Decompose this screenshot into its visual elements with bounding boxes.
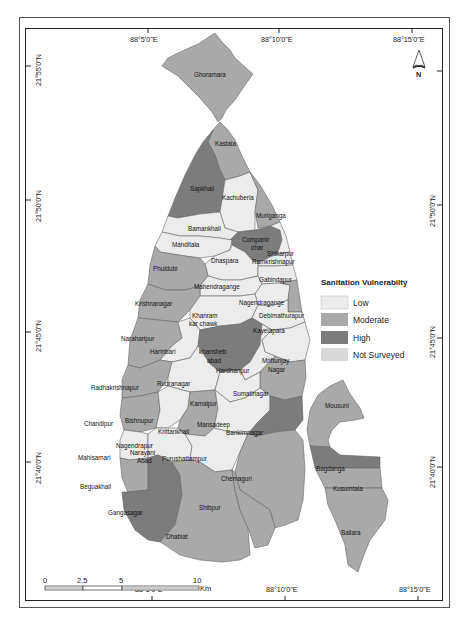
label-chandipur: Chandipur (84, 420, 113, 428)
label-radhakrishnapur: Radhakrishnapur (91, 384, 139, 392)
label-narayani-abad: Abad (137, 457, 152, 464)
label-bishnupur: Bishnupur (125, 417, 153, 425)
legend-swatch-low (321, 296, 348, 309)
label-narayani-abad: Narayani (130, 449, 155, 457)
legend-label-high: High (353, 333, 371, 343)
label-khanram: kar chawk (189, 320, 218, 327)
region-kachuberia[interactable] (220, 172, 258, 232)
region-chandipur[interactable] (120, 392, 160, 432)
label-kachuberia: Kachuberia (222, 194, 254, 201)
legend-label-moderate: Moderate (353, 315, 389, 325)
sagar-island (120, 33, 310, 562)
legend: Sanitation Vulnerabilty Low Moderate Hig… (321, 278, 408, 361)
north-arrow-label: N (416, 70, 421, 79)
legend-label-low: Low (353, 298, 369, 308)
label-dhablat: Dhablat (166, 533, 188, 540)
label-purushattampur: Purushattampur (162, 455, 207, 463)
legend-title: Sanitation Vulnerabilty (321, 278, 408, 287)
label-sumatinagar: Sumatinagar (233, 390, 269, 398)
bottom-longitude-label: 88°10'0"E (266, 585, 298, 594)
north-arrow-icon (413, 50, 425, 68)
label-mrittunjay-nagar: Mrittunjay (262, 357, 290, 365)
label-naraharipur: Naraharipur (121, 335, 154, 343)
label-bankimnagar: Bankimnagar (226, 429, 263, 437)
label-bamankhali: Bamankhali (188, 225, 221, 232)
label-krishnanagar: Krishnanagar (135, 300, 172, 308)
legend-swatch-not-surveyed (321, 348, 348, 361)
label-muriganga: Muriganga (256, 212, 286, 220)
label-harinbari: Harinbari (150, 348, 176, 355)
scale-tick-0: 0 (43, 576, 47, 585)
scale-unit: Km (200, 584, 211, 593)
region-mousuni[interactable] (307, 380, 364, 447)
scale-tick-2-5: 2.5 (77, 576, 87, 585)
left-latitude-label: 21°40'0"N (34, 452, 43, 484)
left-latitude-label: 21°50'0"N (34, 190, 43, 222)
right-latitude-label: 21°40'0"N (428, 456, 437, 488)
label-mansadeep: Mansadeep (197, 421, 230, 429)
label-mrittunjay-nagar: Nagar (268, 366, 285, 374)
map-canvas: 88°5'0"E 88°10'0"E 88°15'0"E 88°5'0"E 88… (0, 0, 465, 635)
label-mahendragange: Mahendragange (194, 283, 240, 291)
right-latitude-label: 21°50'0"N (428, 195, 437, 227)
label-debimathurapur: Debimathurapur (259, 312, 304, 320)
right-latitude-label: 21°45'0"N (428, 326, 437, 358)
label-manditala: Manditala (172, 241, 200, 248)
label-nagendragange: Nagendragange (239, 299, 285, 307)
label-hardhanpur: Hardhanpur (216, 367, 249, 375)
label-kayelapara: Kayelapara (253, 327, 285, 335)
label-companir-char: char (251, 244, 263, 251)
label-gangasagar: Gangasagar (108, 509, 143, 517)
legend-swatch-high (321, 331, 348, 344)
label-khanram: Khanram (192, 312, 218, 319)
label-kastala: Kastala (215, 140, 237, 147)
left-latitude-label: 21°55'0"N (34, 54, 43, 86)
top-longitude-label: 88°5'0"E (130, 35, 158, 44)
label-beguakhali: Beguakhali (80, 483, 111, 491)
label-mahisamari: Mahisamari (78, 454, 111, 461)
scale-tick-5: 5 (119, 576, 123, 585)
label-dhaspara: Dhaspara (211, 257, 239, 265)
label-kusumtala: Kusumtala (333, 485, 363, 492)
label-companir-char: Companir (242, 236, 269, 244)
label-sapkhali: Sapkhali (190, 185, 214, 193)
label-khansheb-abad: abad (207, 357, 222, 364)
label-ghoramara: Ghoramara (194, 71, 226, 78)
label-bagdanga: Bagdanga (316, 465, 345, 473)
label-khansheb-abad: khansheb (199, 348, 227, 355)
label-phuldubi: Phuldubi (153, 265, 178, 272)
label-shibpur: Shibpur (199, 504, 221, 512)
label-rudranagar: Rudranagar (157, 380, 190, 388)
scale-bar: 0 2.5 5 10 Km (43, 576, 211, 593)
label-krittankhali: Krittankhali (158, 428, 189, 435)
label-kamalpur: Kamalpur (190, 400, 217, 408)
label-shikarpur: Shikarpur (267, 250, 294, 258)
label-mousuni: Mousuni (325, 402, 349, 409)
label-baliara: Baliara (341, 529, 361, 536)
top-longitude-label: 88°15'0"E (393, 35, 425, 44)
bottom-longitude-label: 88°15'0"E (399, 585, 431, 594)
label-gabindapur: Gabindapur (259, 276, 292, 284)
label-chemaguri: Chemaguri (221, 475, 252, 483)
legend-label-not-surveyed: Not Surveyed (353, 350, 405, 360)
left-latitude-label: 21°45'0"N (34, 320, 43, 352)
label-ramkrishnapur: Ramkrishnapur (252, 258, 295, 266)
legend-swatch-moderate (321, 313, 348, 326)
top-longitude-label: 88°10'0"E (261, 35, 293, 44)
